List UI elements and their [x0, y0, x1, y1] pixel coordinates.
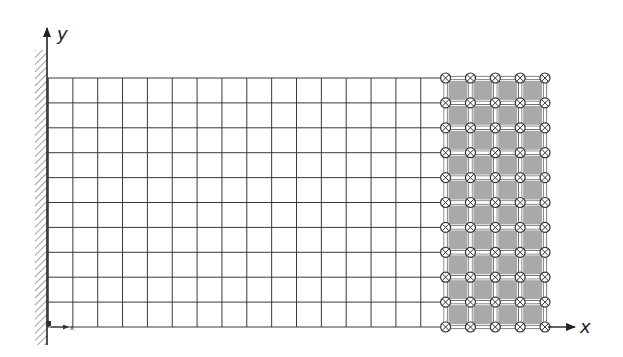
node-cross-circle-icon	[465, 297, 475, 307]
node-cross-circle-icon	[515, 173, 525, 183]
shaded-cell	[449, 131, 468, 150]
shaded-cell	[473, 206, 492, 225]
shaded-cell	[449, 280, 468, 299]
node-cross-circle-icon	[465, 173, 475, 183]
shaded-cell	[523, 156, 542, 175]
node-cross-circle-icon	[490, 73, 500, 83]
x-axis-label: x	[579, 316, 591, 337]
shaded-cell	[498, 181, 517, 200]
node-cross-circle-icon	[465, 272, 475, 282]
shaded-cell	[523, 81, 542, 100]
node-cross-circle-icon	[515, 148, 525, 158]
node-cross-circle-icon	[465, 148, 475, 158]
node-cross-circle-icon	[540, 73, 550, 83]
node-cross-circle-icon	[540, 123, 550, 133]
node-cross-circle-icon	[515, 297, 525, 307]
node-cross-circle-icon	[465, 222, 475, 232]
node-cross-circle-icon	[515, 198, 525, 208]
node-cross-circle-icon	[441, 73, 451, 83]
node-cross-circle-icon	[540, 272, 550, 282]
node-cross-circle-icon	[490, 148, 500, 158]
shaded-cell	[449, 156, 468, 175]
shaded-cell	[473, 156, 492, 175]
shaded-cell	[473, 81, 492, 100]
node-cross-circle-icon	[540, 148, 550, 158]
node-cross-circle-icon	[465, 247, 475, 257]
shaded-cell	[498, 156, 517, 175]
node-cross-circle-icon	[441, 98, 451, 108]
shaded-cell	[449, 181, 468, 200]
shaded-cell	[498, 131, 517, 150]
node-cross-circle-icon	[540, 98, 550, 108]
shaded-cell	[498, 206, 517, 225]
node-cross-circle-icon	[441, 297, 451, 307]
shaded-cell	[523, 230, 542, 249]
shaded-cell	[523, 106, 542, 125]
shaded-cell	[523, 181, 542, 200]
node-cross-circle-icon	[465, 322, 475, 332]
node-cross-circle-icon	[441, 173, 451, 183]
shaded-cell	[473, 255, 492, 274]
node-cross-circle-icon	[490, 322, 500, 332]
y-axis-label: y	[56, 23, 68, 44]
node-cross-circle-icon	[465, 98, 475, 108]
node-cross-circle-icon	[441, 222, 451, 232]
node-cross-circle-icon	[515, 98, 525, 108]
wall-hatching	[35, 50, 47, 345]
node-cross-circle-icon	[465, 73, 475, 83]
local-x-label: x	[70, 324, 74, 332]
node-cross-circle-icon	[490, 123, 500, 133]
node-cross-circle-icon	[515, 73, 525, 83]
shaded-cell	[523, 305, 542, 324]
shaded-cell	[449, 305, 468, 324]
shaded-cell	[523, 280, 542, 299]
node-cross-circle-icon	[540, 173, 550, 183]
shaded-cell	[473, 131, 492, 150]
y-axis: y	[47, 23, 68, 345]
shaded-cell	[523, 131, 542, 150]
node-cross-circle-icon	[515, 322, 525, 332]
fixed-wall-support	[35, 50, 47, 345]
shaded-cell	[473, 106, 492, 125]
node-cross-circle-icon	[490, 98, 500, 108]
node-cross-circle-icon	[515, 247, 525, 257]
node-cross-circle-icon	[540, 247, 550, 257]
shaded-cell	[473, 280, 492, 299]
node-cross-circle-icon	[515, 123, 525, 133]
shaded-cell	[523, 255, 542, 274]
shaded-cell	[449, 81, 468, 100]
shaded-cell	[449, 206, 468, 225]
shaded-cell	[449, 230, 468, 249]
node-cross-circle-icon	[515, 222, 525, 232]
node-cross-circle-icon	[490, 272, 500, 282]
shaded-cell	[498, 255, 517, 274]
node-cross-circle-icon	[540, 297, 550, 307]
node-cross-circle-icon	[441, 247, 451, 257]
node-cross-circle-icon	[540, 222, 550, 232]
node-cross-circle-icon	[540, 198, 550, 208]
node-cross-circle-icon	[441, 148, 451, 158]
shaded-cell	[473, 230, 492, 249]
shaded-cell	[498, 81, 517, 100]
shaded-cell	[449, 106, 468, 125]
shaded-cell	[498, 280, 517, 299]
shaded-cell	[473, 305, 492, 324]
node-cross-circle-icon	[441, 272, 451, 282]
node-cross-circle-icon	[490, 198, 500, 208]
node-cross-circle-icon	[490, 222, 500, 232]
shaded-cell	[449, 255, 468, 274]
x-axis: x	[548, 316, 591, 337]
node-cross-circle-icon	[490, 247, 500, 257]
node-cross-circle-icon	[515, 272, 525, 282]
shaded-cell	[498, 106, 517, 125]
node-cross-circle-icon	[465, 198, 475, 208]
origin-square	[46, 321, 51, 326]
shaded-cell	[498, 305, 517, 324]
node-cross-circle-icon	[441, 322, 451, 332]
node-cross-circle-icon	[441, 123, 451, 133]
shaded-cell	[498, 230, 517, 249]
node-cross-circle-icon	[490, 297, 500, 307]
shaded-cell	[523, 206, 542, 225]
shaded-cell	[473, 181, 492, 200]
node-cross-circle-icon	[490, 173, 500, 183]
